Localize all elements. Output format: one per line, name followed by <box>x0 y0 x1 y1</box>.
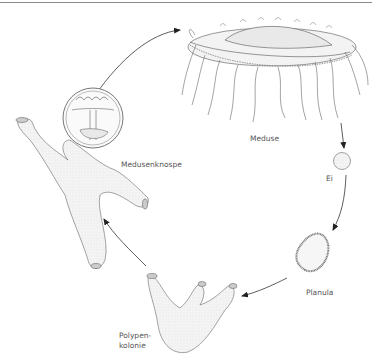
arrow-planula-to-polyp <box>242 278 287 296</box>
label-ei: Ei <box>326 174 333 184</box>
label-medusenknospe: Medusenknospe <box>121 160 182 170</box>
ei-illustration <box>334 153 351 170</box>
arrow-polyp-to-knospe <box>104 219 146 266</box>
label-polypenkolonie-line2: kolonie <box>119 341 151 351</box>
polypenkolonie-illustration <box>147 274 237 353</box>
label-planula: Planula <box>306 288 333 298</box>
medusenknospe-illustration <box>16 88 148 269</box>
label-polypenkolonie: Polypen- kolonie <box>119 331 151 351</box>
label-polypenkolonie-line1: Polypen- <box>119 331 151 341</box>
meduse-illustration <box>182 18 368 123</box>
life-cycle-diagram <box>0 0 379 364</box>
label-meduse: Meduse <box>250 134 279 144</box>
planula-illustration <box>296 234 328 272</box>
arrow-knospe-to-meduse <box>96 30 180 94</box>
arrow-meduse-to-ei <box>341 123 344 148</box>
arrow-ei-to-planula <box>333 175 346 230</box>
